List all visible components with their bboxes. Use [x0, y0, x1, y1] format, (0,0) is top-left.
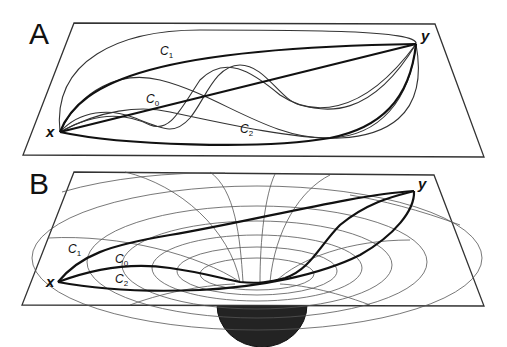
point-x-label-b: x — [45, 273, 55, 290]
point-y-label-b: y — [417, 175, 427, 192]
panel-a: A x y C1 C0 C2 — [23, 17, 484, 157]
mass-sphere — [217, 305, 307, 347]
panel-a-label: A — [29, 17, 49, 50]
panel-b-label: B — [29, 167, 49, 200]
figure-canvas: A x y C1 C0 C2 B — [0, 0, 507, 347]
panel-b: B x y — [22, 167, 484, 347]
point-y-label-a: y — [420, 27, 430, 44]
point-x-label-a: x — [45, 123, 55, 140]
